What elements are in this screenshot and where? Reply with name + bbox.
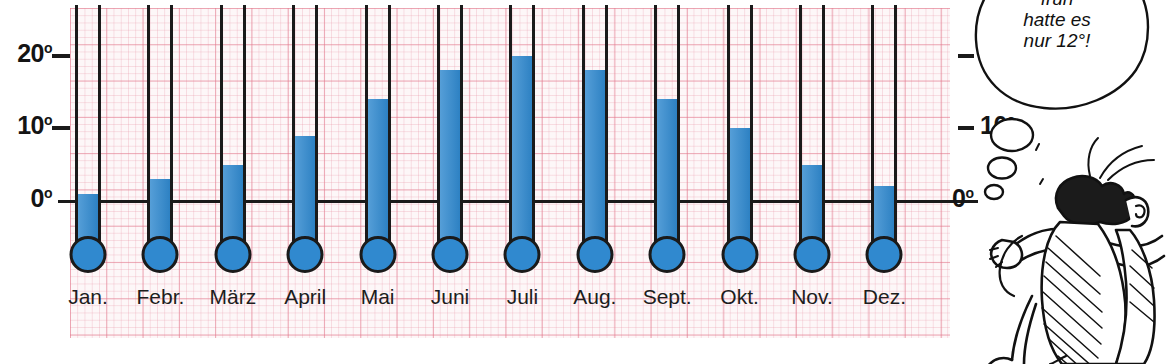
thermometer-juli[interactable]: Juli	[486, 0, 558, 364]
thermometer-dez[interactable]: Dez.	[848, 0, 920, 364]
thermometer-april[interactable]: April	[269, 0, 341, 364]
y-axis-left-label-20: 20o	[17, 39, 52, 68]
x-axis-label-juli: Juli	[507, 285, 539, 309]
thermometer-märz[interactable]: März	[197, 0, 269, 364]
x-axis-label-märz: März	[209, 285, 256, 309]
mercury-column	[512, 56, 532, 254]
degree-symbol: o	[44, 39, 52, 55]
thermometer-sept[interactable]: Sept.	[631, 0, 703, 364]
x-axis-label-mai: Mai	[361, 285, 395, 309]
y-axis-left-label-0: 0o	[31, 184, 52, 213]
thermometer-bulb	[287, 236, 324, 273]
thermometer-jan[interactable]: Jan.	[52, 0, 124, 364]
cartoon-drawing	[940, 0, 1172, 364]
x-axis-label-aug: Aug.	[573, 285, 616, 309]
cartoon-illustration: frühhatte esnur 12°!	[940, 0, 1172, 364]
axis-value: 0	[31, 184, 44, 212]
thermometer-bulb	[142, 236, 179, 273]
speech-bubble-line-3: nur 12°!	[992, 30, 1122, 51]
thermometer-bulb	[214, 236, 251, 273]
thermometer-mai[interactable]: Mai	[342, 0, 414, 364]
thermometer-bulb	[70, 236, 107, 273]
thermometer-febr[interactable]: Febr.	[124, 0, 196, 364]
speech-bubble-line-1: früh	[992, 0, 1122, 9]
axis-value: 20	[17, 39, 44, 67]
x-axis-label-febr: Febr.	[136, 285, 184, 309]
thermometer-nov[interactable]: Nov.	[776, 0, 848, 364]
x-axis-label-jan: Jan.	[68, 285, 108, 309]
thermometer-bulb	[649, 236, 686, 273]
thermometer-juni[interactable]: Juni	[414, 0, 486, 364]
thermometer-bulb	[721, 236, 758, 273]
x-axis-label-dez: Dez.	[863, 285, 906, 309]
mercury-column	[657, 99, 677, 254]
x-axis-label-okt: Okt.	[720, 285, 759, 309]
speech-bubble-line-2: hatte es	[992, 9, 1122, 30]
x-axis-label-april: April	[284, 285, 326, 309]
degree-symbol: o	[44, 112, 52, 128]
x-axis-label-sept: Sept.	[643, 285, 692, 309]
y-axis-left-label-10: 10o	[17, 111, 52, 140]
axis-value: 10	[17, 111, 44, 139]
thermometer-bulb	[359, 236, 396, 273]
thermometer-bulb	[794, 236, 831, 273]
mercury-column	[440, 70, 460, 254]
degree-symbol: o	[44, 185, 52, 201]
x-axis-label-juni: Juni	[431, 285, 470, 309]
thermometer-bulb	[432, 236, 469, 273]
mercury-column	[368, 99, 388, 254]
thermometer-okt[interactable]: Okt.	[704, 0, 776, 364]
mercury-column	[585, 70, 605, 254]
thermometer-bulb	[866, 236, 903, 273]
speech-bubble-text: frühhatte esnur 12°!	[992, 0, 1122, 51]
thermometer-bulb	[504, 236, 541, 273]
x-axis-label-nov: Nov.	[791, 285, 833, 309]
thermometer-bulb	[576, 236, 613, 273]
thermometer-aug[interactable]: Aug.	[559, 0, 631, 364]
